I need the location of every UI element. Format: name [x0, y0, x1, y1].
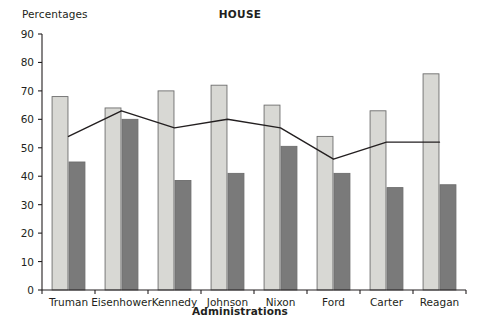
svg-text:30: 30 — [21, 199, 34, 211]
bar-dark-truman — [69, 162, 85, 290]
bar-dark-carter — [387, 188, 403, 290]
svg-text:0: 0 — [27, 284, 34, 296]
x-axis-ticks — [42, 290, 466, 294]
svg-text:10: 10 — [21, 256, 34, 268]
svg-text:60: 60 — [21, 113, 34, 125]
svg-text:40: 40 — [21, 170, 34, 182]
svg-text:90: 90 — [21, 28, 34, 40]
chart-container: Percentages HOUSE 0102030405060708090 Tr… — [0, 0, 480, 326]
x-axis-title: Administrations — [0, 305, 480, 317]
bar-light-carter — [370, 111, 386, 290]
bar-dark-nixon — [281, 146, 297, 290]
svg-text:20: 20 — [21, 227, 34, 239]
svg-text:50: 50 — [21, 142, 34, 154]
dark-bar-series — [69, 119, 456, 290]
bar-light-kennedy — [158, 91, 174, 290]
bar-dark-johnson — [228, 173, 244, 290]
light-bar-series — [52, 74, 439, 290]
bar-dark-reagan — [440, 185, 456, 290]
y-axis-ticks: 0102030405060708090 — [21, 28, 42, 296]
bar-light-johnson — [211, 85, 227, 290]
bar-dark-eisenhower — [122, 119, 138, 290]
bar-dark-kennedy — [175, 180, 191, 290]
bar-light-reagan — [423, 74, 439, 290]
svg-text:80: 80 — [21, 56, 34, 68]
plot-area: 0102030405060708090 TrumanEisenhowerKenn… — [0, 0, 480, 326]
bar-light-eisenhower — [105, 108, 121, 290]
bar-dark-ford — [334, 173, 350, 290]
bar-light-nixon — [264, 105, 280, 290]
svg-text:70: 70 — [21, 85, 34, 97]
bar-light-ford — [317, 136, 333, 290]
bar-light-truman — [52, 97, 68, 290]
